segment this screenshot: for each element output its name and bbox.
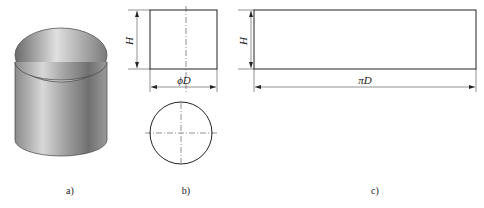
diameter-label-b: ϕD — [177, 74, 191, 86]
caption-b: b) — [182, 185, 190, 197]
cylinder-development-diagram: a) H ϕD b) H πD c) — [0, 0, 484, 208]
length-label-c: πD — [358, 74, 372, 86]
height-label-c: H — [237, 36, 249, 46]
panel-a-cylinder — [15, 28, 107, 156]
panel-b-front-view — [128, 6, 217, 92]
panel-b-top-view — [145, 102, 218, 164]
panel-c-development — [238, 10, 476, 92]
caption-c: c) — [371, 185, 379, 197]
caption-a: a) — [66, 185, 74, 197]
height-label-b: H — [123, 36, 135, 46]
